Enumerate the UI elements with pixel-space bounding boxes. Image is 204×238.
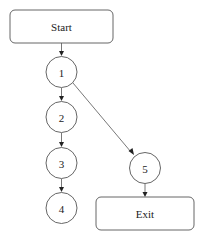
arrowhead-1-5 bbox=[129, 148, 135, 155]
node-2-label: 2 bbox=[59, 112, 65, 124]
arrowhead-3-4 bbox=[59, 187, 64, 192]
control-flow-diagram: Start 1 2 3 4 5 Exit bbox=[0, 0, 204, 238]
node-4: 4 bbox=[46, 193, 77, 224]
node-4-label: 4 bbox=[59, 203, 65, 215]
node-2: 2 bbox=[46, 102, 77, 133]
node-5-label: 5 bbox=[142, 163, 148, 175]
node-5: 5 bbox=[130, 153, 161, 184]
edge-1-5 bbox=[73, 83, 131, 152]
node-3: 3 bbox=[46, 148, 77, 179]
node-start: Start bbox=[10, 10, 113, 43]
arrowhead-5-exit bbox=[143, 192, 148, 197]
arrowhead-start-1 bbox=[59, 51, 64, 56]
node-1: 1 bbox=[46, 57, 77, 88]
node-exit: Exit bbox=[96, 197, 194, 230]
node-start-label: Start bbox=[51, 21, 72, 33]
node-3-label: 3 bbox=[59, 158, 65, 170]
arrowhead-1-2 bbox=[59, 96, 64, 101]
arrowhead-2-3 bbox=[59, 142, 64, 147]
node-exit-label: Exit bbox=[136, 208, 154, 220]
node-1-label: 1 bbox=[59, 67, 65, 79]
